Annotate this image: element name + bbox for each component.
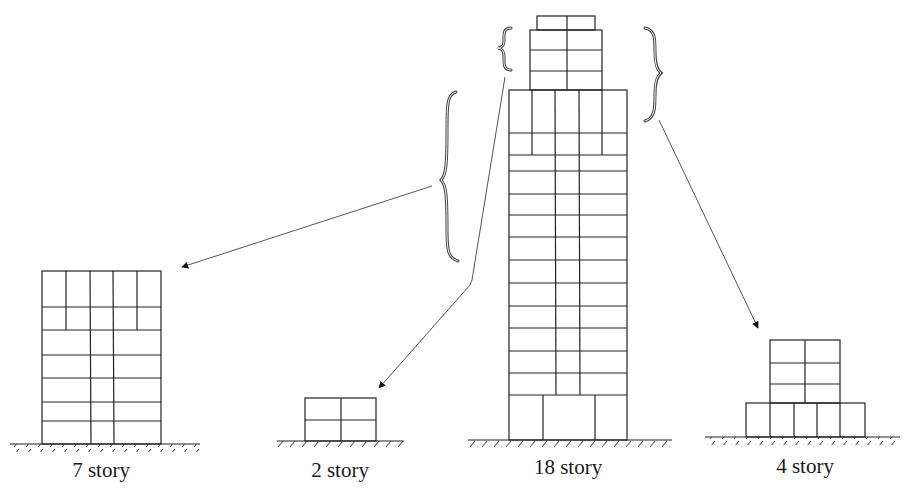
four-story-ground <box>705 437 900 445</box>
seven-story-building <box>42 271 161 444</box>
two-story-building <box>305 398 376 441</box>
four-story-building <box>746 340 865 437</box>
eighteen-story-building <box>509 16 627 440</box>
seven-story-ground <box>10 444 200 452</box>
four-story-label: 4 story <box>776 454 834 479</box>
arrow-to-two-story <box>379 77 505 388</box>
right-brace-icon <box>645 28 661 121</box>
arrow-to-four-story <box>659 120 758 328</box>
two-story-ground <box>277 441 404 449</box>
seven-story-label: 7 story <box>72 458 130 483</box>
top-small-brace-icon <box>498 28 511 70</box>
arrow-to-seven-story <box>182 186 432 267</box>
diagram-canvas <box>0 0 917 501</box>
two-story-label: 2 story <box>311 458 369 483</box>
left-large-brace-icon <box>441 92 458 261</box>
eighteen-story-ground <box>468 440 672 448</box>
eighteen-story-label: 18 story <box>534 455 602 480</box>
